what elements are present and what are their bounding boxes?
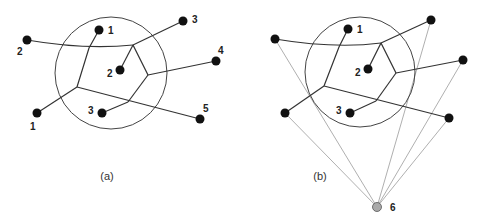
outer-node-5 bbox=[196, 115, 205, 124]
label-outer-3: 3 bbox=[192, 14, 198, 25]
nodes bbox=[23, 17, 221, 124]
outer-node-3 bbox=[179, 17, 188, 26]
node-labels: 1 2 3 6 bbox=[336, 24, 396, 213]
outer-node-tl bbox=[271, 35, 280, 44]
outer-node-r bbox=[459, 56, 468, 65]
inner-node-1 bbox=[344, 25, 353, 34]
nodes bbox=[271, 16, 468, 123]
hub-node-6 bbox=[373, 203, 382, 212]
label-inner-1: 1 bbox=[108, 25, 114, 36]
label-outer-5: 5 bbox=[203, 103, 209, 114]
label-inner-3: 3 bbox=[88, 105, 94, 116]
caption-a: (a) bbox=[100, 170, 113, 182]
outer-node-4 bbox=[212, 57, 221, 66]
hub-edges bbox=[275, 20, 463, 207]
outer-node-1 bbox=[33, 109, 42, 118]
label-outer-2: 2 bbox=[17, 46, 23, 57]
outer-node-br bbox=[445, 114, 454, 123]
label-outer-4: 4 bbox=[218, 45, 224, 56]
outer-node-tr bbox=[427, 16, 436, 25]
outer-node-2 bbox=[23, 36, 32, 45]
label-inner-3: 3 bbox=[336, 105, 342, 116]
label-outer-1: 1 bbox=[30, 121, 36, 132]
inner-node-3 bbox=[98, 109, 107, 118]
label-inner-2: 2 bbox=[107, 68, 113, 79]
label-inner-1: 1 bbox=[357, 24, 363, 35]
outer-node-bl bbox=[281, 109, 290, 118]
inner-node-2 bbox=[364, 65, 373, 74]
inner-node-2 bbox=[116, 66, 125, 75]
panel-a: 1 2 3 1 2 3 4 5 (a) bbox=[17, 14, 224, 182]
inner-node-3 bbox=[346, 109, 355, 118]
panel-b: 1 2 3 6 (b) bbox=[271, 16, 468, 214]
caption-b: (b) bbox=[313, 170, 326, 182]
label-hub-6: 6 bbox=[390, 202, 396, 213]
steiner-tree-diagram: 1 2 3 1 2 3 4 5 (a) bbox=[0, 0, 484, 223]
inner-node-1 bbox=[95, 26, 104, 35]
label-inner-2: 2 bbox=[355, 67, 361, 78]
